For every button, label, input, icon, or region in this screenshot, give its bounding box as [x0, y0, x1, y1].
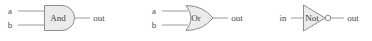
diagram-canvas: a b And out a b Or out in Not	[0, 0, 372, 41]
or-output-label: out	[231, 13, 243, 23]
and-output-label: out	[93, 13, 105, 23]
not-gate-inversion-bubble	[325, 15, 331, 21]
or-gate-group: a b Or out	[152, 6, 243, 31]
and-gate-label: And	[50, 13, 66, 23]
or-input-b-label: b	[152, 20, 157, 30]
or-input-a-label: a	[152, 6, 156, 16]
or-gate-label: Or	[191, 13, 201, 23]
logic-gates-diagram: a b And out a b Or out in Not	[0, 0, 372, 41]
and-input-b-label: b	[8, 20, 13, 30]
not-gate-group: in Not out	[279, 5, 359, 31]
and-gate-group: a b And out	[8, 6, 105, 31]
not-gate-label: Not	[305, 13, 319, 23]
and-input-a-label: a	[8, 6, 12, 16]
not-input-label: in	[279, 13, 287, 23]
not-output-label: out	[347, 13, 359, 23]
